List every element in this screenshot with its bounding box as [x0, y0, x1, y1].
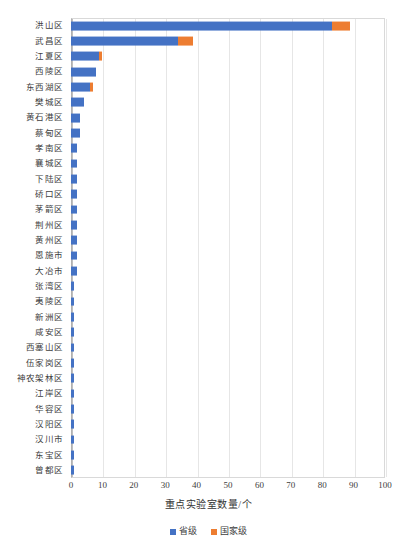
bar-segment-provincial	[71, 312, 74, 321]
y-axis-label: 下陆区	[0, 171, 67, 186]
bar-segment-provincial	[71, 159, 77, 168]
y-axis-label: 华容区	[0, 401, 67, 416]
y-axis-label: 武昌区	[0, 33, 67, 48]
bar-row	[71, 125, 385, 140]
bar-row	[71, 263, 385, 278]
stacked-bar	[71, 236, 77, 245]
stacked-bar	[71, 220, 77, 229]
legend-swatch-icon	[170, 529, 176, 535]
bar-segment-national	[90, 83, 93, 92]
bar-row	[71, 417, 385, 432]
x-axis-tick-labels: 0102030405060708090100	[71, 480, 385, 494]
x-tick-label: 60	[255, 480, 264, 490]
y-axis-label: 大冶市	[0, 263, 67, 278]
bar-row	[71, 171, 385, 186]
bar-row	[71, 233, 385, 248]
bar-row	[71, 49, 385, 64]
bar-row	[71, 371, 385, 386]
x-tick-label: 100	[378, 480, 392, 490]
bar-row	[71, 110, 385, 125]
bar-row	[71, 248, 385, 263]
legend-label: 省级	[179, 527, 197, 536]
y-axis-label: 西陵区	[0, 64, 67, 79]
bar-row	[71, 187, 385, 202]
bar-segment-provincial	[71, 450, 74, 459]
bar-segment-provincial	[71, 144, 77, 153]
y-axis-label: 襄城区	[0, 156, 67, 171]
bar-segment-provincial	[71, 466, 74, 475]
legend-label: 国家级	[220, 527, 247, 536]
stacked-bar	[71, 83, 93, 92]
x-tick-label: 40	[192, 480, 201, 490]
stacked-bar	[71, 251, 77, 260]
y-axis-label: 东宝区	[0, 447, 67, 462]
bar-row	[71, 463, 385, 478]
bar-segment-provincial	[71, 52, 99, 61]
bar-row	[71, 401, 385, 416]
chart-legend: 省级国家级	[0, 527, 417, 536]
gridline-100	[386, 19, 387, 477]
y-axis-label: 东西湖区	[0, 79, 67, 94]
bar-segment-provincial	[71, 282, 74, 291]
stacked-bar	[71, 52, 102, 61]
bar-row	[71, 325, 385, 340]
bar-segment-provincial	[71, 21, 332, 30]
stacked-bar	[71, 297, 74, 306]
legend-item[interactable]: 省级	[170, 527, 197, 536]
stacked-bar	[71, 328, 74, 337]
stacked-bar	[71, 129, 80, 138]
stacked-bar	[71, 205, 77, 214]
stacked-bar	[71, 404, 74, 413]
bar-rows	[71, 18, 385, 478]
x-tick-label: 70	[286, 480, 295, 490]
bar-row	[71, 386, 385, 401]
bar-row	[71, 202, 385, 217]
bar-segment-provincial	[71, 236, 77, 245]
bar-segment-provincial	[71, 404, 74, 413]
bar-segment-provincial	[71, 190, 77, 199]
stacked-bar	[71, 389, 74, 398]
stacked-bar	[71, 159, 77, 168]
stacked-bar	[71, 37, 193, 46]
y-axis-label: 蔡甸区	[0, 125, 67, 140]
legend-swatch-icon	[211, 529, 217, 535]
bar-row	[71, 432, 385, 447]
stacked-bar	[71, 343, 74, 352]
bar-segment-provincial	[71, 113, 80, 122]
bar-segment-provincial	[71, 205, 77, 214]
bar-row	[71, 355, 385, 370]
stacked-bar	[71, 466, 74, 475]
y-axis-label: 咸安区	[0, 325, 67, 340]
x-tick-label: 10	[98, 480, 107, 490]
bar-row	[71, 33, 385, 48]
bar-row	[71, 79, 385, 94]
bar-row	[71, 340, 385, 355]
stacked-bar	[71, 144, 77, 153]
y-axis-label: 江岸区	[0, 386, 67, 401]
x-tick-label: 50	[224, 480, 233, 490]
bar-row	[71, 217, 385, 232]
legend-item[interactable]: 国家级	[211, 527, 247, 536]
y-axis-label: 夷陵区	[0, 294, 67, 309]
bar-segment-provincial	[71, 67, 96, 76]
bar-segment-provincial	[71, 175, 77, 184]
bar-segment-national	[99, 52, 102, 61]
bar-row	[71, 447, 385, 462]
stacked-bar	[71, 435, 74, 444]
x-tick-label: 80	[318, 480, 327, 490]
y-axis-label: 西塞山区	[0, 340, 67, 355]
bar-segment-national	[332, 21, 351, 30]
stacked-bar	[71, 98, 84, 107]
bar-row	[71, 294, 385, 309]
bar-segment-national	[178, 37, 194, 46]
bar-segment-provincial	[71, 328, 74, 337]
bar-segment-provincial	[71, 358, 74, 367]
stacked-bar	[71, 420, 74, 429]
bar-segment-provincial	[71, 374, 74, 383]
bar-segment-provincial	[71, 389, 74, 398]
y-axis-label: 恩施市	[0, 248, 67, 263]
stacked-bar	[71, 21, 350, 30]
stacked-bar	[71, 266, 77, 275]
bar-segment-provincial	[71, 420, 74, 429]
stacked-bar	[71, 190, 77, 199]
